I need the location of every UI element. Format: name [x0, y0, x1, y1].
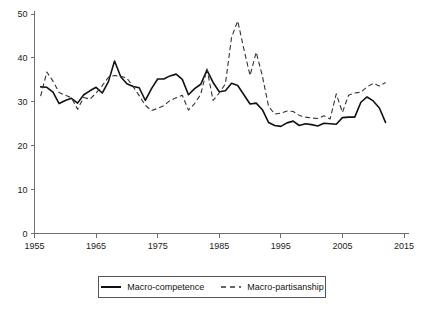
x-tick-label: 1965 — [86, 241, 106, 251]
y-tick-label: 20 — [17, 141, 27, 151]
legend-label-macro-partisanship: Macro-partisanship — [247, 282, 324, 292]
y-tick-label: 0 — [22, 229, 27, 239]
line-chart-plot: 01020304050 1955196519751985199520052015 — [0, 0, 424, 315]
x-axis-ticks: 1955196519751985199520052015 — [24, 234, 414, 251]
y-tick-label: 30 — [17, 97, 27, 107]
x-tick-label: 2015 — [394, 241, 414, 251]
series-line-macro-partisanship — [41, 21, 386, 119]
y-tick-label: 50 — [17, 9, 27, 19]
data-series-group — [41, 21, 386, 126]
y-tick-label: 40 — [17, 53, 27, 63]
x-tick-label: 1975 — [148, 241, 168, 251]
y-tick-label: 10 — [17, 185, 27, 195]
legend-item-macro-partisanship: Macro-partisanship — [220, 282, 324, 292]
x-tick-label: 1985 — [209, 241, 229, 251]
y-axis-ticks: 01020304050 — [17, 9, 34, 239]
x-tick-label: 1995 — [271, 241, 291, 251]
legend-label-macro-competence: Macro-competence — [127, 282, 204, 292]
series-line-macro-competence — [41, 61, 386, 126]
x-tick-label: 2005 — [332, 241, 352, 251]
legend-item-macro-competence: Macro-competence — [100, 282, 204, 292]
x-tick-label: 1955 — [24, 241, 44, 251]
chart-legend: Macro-competence Macro-partisanship — [98, 276, 326, 298]
legend-solid-line-icon — [100, 282, 122, 292]
chart-container: 01020304050 1955196519751985199520052015… — [0, 0, 424, 315]
legend-dashed-line-icon — [220, 282, 242, 292]
